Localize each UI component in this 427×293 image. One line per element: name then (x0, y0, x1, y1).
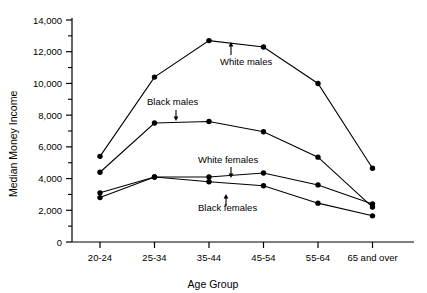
data-point-marker (206, 179, 211, 184)
data-point-marker (206, 119, 211, 124)
chart-container: Median Money Income Age Group 02,0004,00… (0, 0, 427, 293)
y-tick-label: 8,000 (38, 110, 62, 121)
x-tick-label: 45-54 (251, 252, 275, 263)
data-point-marker (97, 190, 102, 195)
y-tick-label: 2,000 (38, 205, 62, 216)
data-point-marker (315, 200, 320, 205)
data-point-marker (152, 174, 157, 179)
data-point-marker (370, 213, 375, 218)
data-point-marker (152, 74, 157, 79)
data-point-marker (97, 195, 102, 200)
data-point-marker (97, 170, 102, 175)
x-tick-label: 55-64 (306, 252, 330, 263)
series-label-text: White males (220, 56, 273, 67)
y-axis-title: Median Money Income (7, 91, 19, 197)
x-tick-label: 65 and over (347, 252, 397, 263)
y-tick-label: 12,000 (33, 46, 62, 57)
y-tick-label: 14,000 (33, 15, 62, 26)
data-point-marker (261, 44, 266, 49)
data-point-marker (206, 174, 211, 179)
data-point-marker (97, 154, 102, 159)
data-point-marker (261, 129, 266, 134)
x-tick-label: 20-24 (88, 252, 112, 263)
x-tick-label: 25-34 (142, 252, 166, 263)
series-label-text: White females (198, 154, 258, 165)
x-axis-title-text: Age Group (188, 278, 239, 290)
x-tick-label: 35-44 (197, 252, 221, 263)
data-point-marker (261, 183, 266, 188)
data-point-marker (261, 170, 266, 175)
series-label-text: Black females (198, 202, 257, 213)
data-point-marker (315, 81, 320, 86)
y-tick-label: 4,000 (38, 173, 62, 184)
data-point-marker (152, 120, 157, 125)
data-point-marker (370, 166, 375, 171)
data-point-marker (370, 201, 375, 206)
y-tick-label: 0 (57, 237, 62, 248)
chart-background (0, 0, 427, 293)
y-tick-label: 6,000 (38, 141, 62, 152)
median-money-income-line-chart: Median Money Income Age Group 02,0004,00… (0, 0, 427, 293)
data-point-marker (206, 38, 211, 43)
data-point-marker (315, 182, 320, 187)
data-point-marker (315, 154, 320, 159)
y-tick-label: 10,000 (33, 78, 62, 89)
y-axis-title-text: Median Money Income (7, 91, 19, 197)
series-label-text: Black males (147, 96, 198, 107)
